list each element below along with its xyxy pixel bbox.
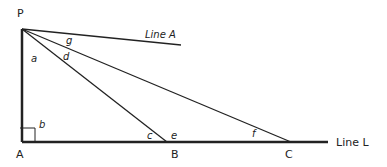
geometry-diagram: P A B Line A Line L a b c d e f g C — [0, 0, 387, 167]
diagram-svg: P A B Line A Line L a b c d e f g C — [0, 0, 387, 167]
label-angle-c: c — [147, 130, 153, 141]
label-point-p: P — [17, 7, 24, 20]
label-point-b: B — [171, 148, 179, 161]
label-point-a: A — [16, 148, 24, 161]
label-line-a: Line A — [145, 29, 176, 40]
label-angle-b: b — [39, 119, 45, 130]
label-angle-e: e — [171, 130, 177, 141]
label-angle-f: f — [252, 128, 257, 139]
label-angle-g: g — [66, 35, 72, 46]
label-line-l: Line L — [336, 136, 369, 149]
segment-pc — [22, 29, 291, 142]
label-angle-d: d — [63, 51, 70, 62]
label-point-c: C — [285, 148, 293, 161]
label-angle-a: a — [31, 53, 37, 64]
